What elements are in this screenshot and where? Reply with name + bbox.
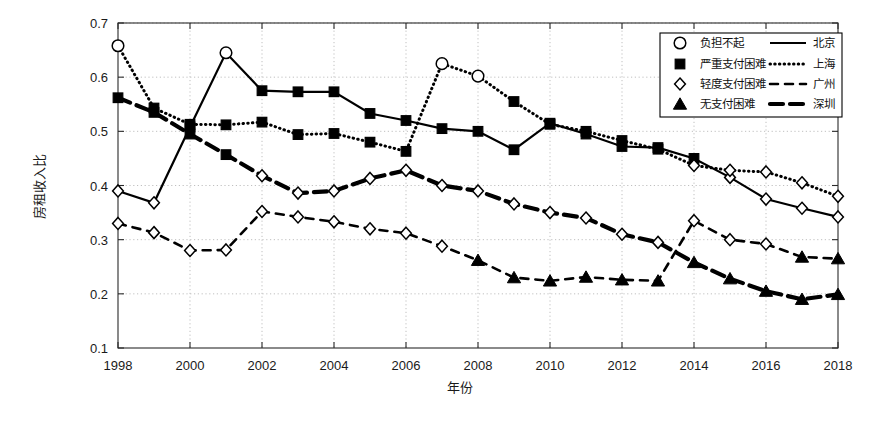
x-tick-label: 2012 xyxy=(608,358,637,373)
data-point-深圳-2000 xyxy=(185,129,195,139)
data-point-北京-2007 xyxy=(437,124,447,134)
y-tick-label: 0.2 xyxy=(90,287,108,302)
data-point-北京-2001 xyxy=(220,47,232,59)
x-tick-label: 2014 xyxy=(680,358,709,373)
data-point-上海-2006 xyxy=(401,147,411,157)
data-point-北京-2004 xyxy=(329,87,339,97)
data-point-上海-2004 xyxy=(329,129,339,139)
x-tick-label: 1998 xyxy=(104,358,133,373)
x-tick-label: 2010 xyxy=(536,358,565,373)
legend: 负担不起严重支付困难轻度支付困难无支付困难北京上海广州深圳 xyxy=(660,33,842,117)
x-tick-label: 2018 xyxy=(824,358,853,373)
y-tick-label: 0.4 xyxy=(90,179,108,194)
data-point-北京-2006 xyxy=(401,116,411,126)
x-tick-label: 2000 xyxy=(176,358,205,373)
legend-marker-label: 严重支付困难 xyxy=(700,57,766,71)
x-axis-title: 年份 xyxy=(447,380,473,395)
chart-figure: 0.10.20.30.40.50.60.7 199820002002200420… xyxy=(0,0,890,422)
legend-series-label: 深圳 xyxy=(813,97,835,111)
legend-marker-circle xyxy=(674,37,686,49)
data-point-深圳-1998 xyxy=(113,93,123,103)
legend-series-label: 广州 xyxy=(813,77,835,91)
data-point-上海-2011 xyxy=(581,127,591,137)
data-point-深圳-2001 xyxy=(221,150,231,160)
data-point-上海-2003 xyxy=(293,130,303,140)
x-tick-label: 2006 xyxy=(392,358,421,373)
legend-marker-square xyxy=(675,59,685,69)
y-tick-label: 0.6 xyxy=(90,70,108,85)
data-point-上海-2013 xyxy=(653,144,663,154)
x-tick-label: 2008 xyxy=(464,358,493,373)
legend-series-label: 北京 xyxy=(813,36,835,50)
data-point-上海-2012 xyxy=(617,136,627,146)
data-point-上海-2008 xyxy=(472,70,484,82)
data-point-北京-2002 xyxy=(257,86,267,96)
data-point-上海-2000 xyxy=(185,119,195,129)
data-point-上海-2005 xyxy=(365,137,375,147)
y-tick-label: 0.7 xyxy=(90,16,108,31)
legend-series-label: 上海 xyxy=(813,57,836,71)
y-axis-title: 房租收入比 xyxy=(32,154,47,219)
rent-income-ratio-line-chart: 0.10.20.30.40.50.60.7 199820002002200420… xyxy=(0,0,890,422)
data-point-北京-2008 xyxy=(473,127,483,137)
data-point-上海-1998 xyxy=(112,40,124,52)
data-point-上海-2009 xyxy=(509,97,519,107)
y-tick-label: 0.5 xyxy=(90,124,108,139)
legend-marker-label: 负担不起 xyxy=(700,36,745,50)
data-point-深圳-1999 xyxy=(149,108,159,118)
data-point-上海-2010 xyxy=(545,119,555,129)
y-tick-label: 0.3 xyxy=(90,233,108,248)
data-point-上海-2002 xyxy=(257,117,267,127)
x-tick-label: 2016 xyxy=(752,358,781,373)
legend-marker-label: 无支付困难 xyxy=(700,97,755,111)
x-tick-label: 2002 xyxy=(248,358,277,373)
data-point-上海-2007 xyxy=(436,58,448,70)
data-point-北京-2009 xyxy=(509,145,519,155)
y-tick-label: 0.1 xyxy=(90,341,108,356)
x-tick-label: 2004 xyxy=(320,358,349,373)
data-point-北京-2005 xyxy=(365,109,375,119)
data-point-上海-2001 xyxy=(221,120,231,130)
legend-marker-label: 轻度支付困难 xyxy=(700,77,766,91)
data-point-北京-2003 xyxy=(293,87,303,97)
